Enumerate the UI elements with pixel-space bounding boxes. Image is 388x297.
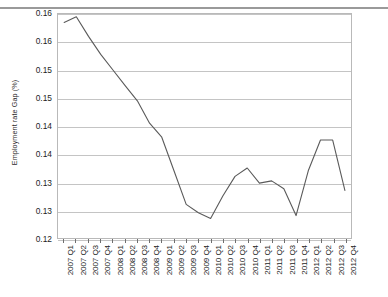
x-axis-tick-mark — [334, 239, 335, 243]
x-axis-tick-label-text: 2009 Q4 — [202, 245, 211, 275]
x-axis-tick-label: 2010 Q1 — [214, 245, 223, 275]
y-axis-tick-label: 0.14 — [18, 149, 52, 159]
x-axis-tick-label: 2009 Q2 — [177, 245, 186, 275]
x-axis-tick-mark — [149, 239, 150, 243]
x-axis-tick-label-text: 2012 Q3 — [337, 245, 346, 275]
x-axis-tick-label-text: 2007 Q1 — [66, 245, 75, 275]
x-axis-tick-label: 2007 Q3 — [91, 245, 100, 275]
x-axis-tick-mark — [125, 239, 126, 243]
x-axis-tick-label: 2009 Q1 — [165, 245, 174, 275]
x-axis-tick-mark — [309, 239, 310, 243]
x-axis-tick-label: 2007 Q1 — [66, 245, 75, 275]
x-axis-tick-label: 2009 Q4 — [202, 245, 211, 275]
x-axis-tick-label: 2008 Q1 — [116, 245, 125, 275]
x-axis-tick-mark — [248, 239, 249, 243]
x-axis-tick-label-text: 2008 Q3 — [140, 245, 149, 275]
x-axis-tick-mark — [272, 239, 273, 243]
x-axis-tick-label: 2012 Q1 — [312, 245, 321, 275]
x-axis-tick-label-text: 2007 Q2 — [79, 245, 88, 275]
x-axis-tick-mark — [284, 239, 285, 243]
x-axis-tick-label-text: 2012 Q1 — [312, 245, 321, 275]
x-axis-tick-mark — [235, 239, 236, 243]
x-axis-tick-label: 2012 Q4 — [349, 245, 358, 275]
x-axis-tick-mark — [174, 239, 175, 243]
y-axis-tick-label: 0.15 — [18, 93, 52, 103]
x-axis-tick-label: 2011 Q4 — [300, 245, 309, 275]
x-axis-tick-mark — [223, 239, 224, 243]
x-axis-tick-mark — [186, 239, 187, 243]
x-axis-tick-label: 2008 Q4 — [152, 245, 161, 275]
x-axis-tick-mark — [63, 239, 64, 243]
x-axis-tick-label-text: 2010 Q2 — [226, 245, 235, 275]
x-axis-tick-label-text: 2011 Q4 — [300, 245, 309, 275]
x-axis-tick-label: 2007 Q4 — [103, 245, 112, 275]
y-axis-tick-label: 0.16 — [18, 36, 52, 46]
x-axis-tick-label-text: 2008 Q4 — [152, 245, 161, 275]
x-axis-tick-label-text: 2011 Q3 — [288, 245, 297, 275]
x-axis-tick-label: 2010 Q2 — [226, 245, 235, 275]
y-axis-tick-label: 0.12 — [18, 234, 52, 244]
x-axis-tick-mark — [100, 239, 101, 243]
x-axis-tick-mark — [346, 239, 347, 243]
x-axis-tick-label-text: 2009 Q2 — [177, 245, 186, 275]
y-axis-tick-label: 0.15 — [18, 65, 52, 75]
x-axis-tick-label: 2012 Q3 — [337, 245, 346, 275]
x-axis-tick-mark — [198, 239, 199, 243]
x-axis-tick-mark — [321, 239, 322, 243]
x-axis-tick-label: 2009 Q3 — [189, 245, 198, 275]
x-axis-tick-label-text: 2011 Q1 — [263, 245, 272, 275]
x-axis-tick-label-text: 2007 Q4 — [103, 245, 112, 275]
x-axis-tick-mark — [75, 239, 76, 243]
line-series — [58, 14, 351, 238]
x-axis-tick-label-text: 2008 Q1 — [116, 245, 125, 275]
x-axis-tick-label: 2010 Q3 — [238, 245, 247, 275]
x-axis-tick-label: 2008 Q2 — [128, 245, 137, 275]
y-axis-tick-label: 0.13 — [18, 206, 52, 216]
x-axis-tick-label: 2012 Q2 — [324, 245, 333, 275]
x-axis-tick-mark — [260, 239, 261, 243]
x-axis-tick-mark — [88, 239, 89, 243]
plot-area — [57, 13, 352, 239]
x-axis-tick-mark — [112, 239, 113, 243]
x-axis-tick-label-text: 2012 Q4 — [349, 245, 358, 275]
chart-figure: Employment rate Gap (%) 0.120.130.130.14… — [0, 0, 388, 297]
x-axis-tick-mark — [161, 239, 162, 243]
series-polyline — [64, 17, 345, 219]
x-axis-tick-label-text: 2009 Q1 — [165, 245, 174, 275]
x-axis-tick-labels: 2007 Q12007 Q22007 Q32007 Q42008 Q12008 … — [57, 245, 352, 297]
x-axis-tick-label-text: 2010 Q1 — [214, 245, 223, 275]
y-axis-tick-label: 0.14 — [18, 121, 52, 131]
x-axis-tick-label: 2007 Q2 — [79, 245, 88, 275]
x-axis-tick-label-text: 2012 Q2 — [324, 245, 333, 275]
x-axis-tick-label-text: 2010 Q3 — [238, 245, 247, 275]
x-axis-tick-label-text: 2007 Q3 — [91, 245, 100, 275]
header-rule — [0, 7, 388, 9]
x-axis-tick-mark — [211, 239, 212, 243]
x-axis-tick-label-text: 2011 Q2 — [275, 245, 284, 275]
x-axis-tick-label: 2008 Q3 — [140, 245, 149, 275]
x-axis-tick-label: 2011 Q2 — [275, 245, 284, 275]
x-axis-tick-label-text: 2009 Q3 — [189, 245, 198, 275]
x-axis-tick-label: 2011 Q1 — [263, 245, 272, 275]
y-axis-tick-label: 0.16 — [18, 8, 52, 18]
y-axis-tick-labels: 0.120.130.130.140.140.150.150.160.16 — [18, 13, 52, 239]
x-axis-tick-label-text: 2010 Q4 — [251, 245, 260, 275]
x-axis-tick-mark — [297, 239, 298, 243]
x-axis-tick-marks — [57, 239, 352, 244]
x-axis-tick-mark — [137, 239, 138, 243]
y-axis-tick-label: 0.13 — [18, 178, 52, 188]
x-axis-tick-label: 2010 Q4 — [251, 245, 260, 275]
x-axis-tick-label: 2011 Q3 — [288, 245, 297, 275]
x-axis-tick-label-text: 2008 Q2 — [128, 245, 137, 275]
